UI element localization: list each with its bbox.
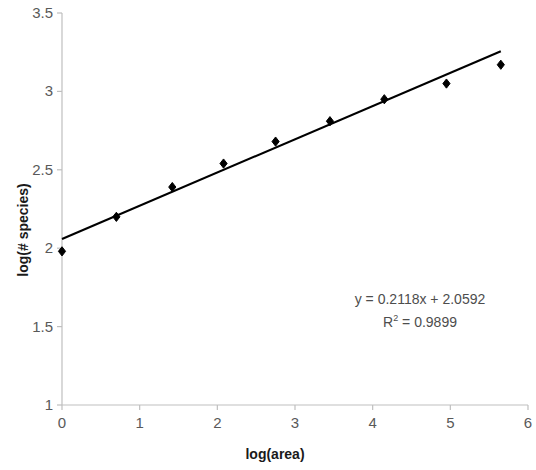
- trend-line: [62, 51, 501, 239]
- x-tick-label: 5: [435, 414, 465, 431]
- data-point-markers: [58, 60, 504, 256]
- plot-area: [0, 0, 536, 470]
- y-axis-title: log(# species): [15, 160, 31, 300]
- y-tick-label: 3: [9, 82, 53, 99]
- x-tick-label: 0: [47, 414, 77, 431]
- y-tick-label: 1: [9, 396, 53, 413]
- y-tick-label: 3.5: [9, 4, 53, 21]
- x-axis-title: log(area): [195, 446, 355, 462]
- x-tick-label: 6: [513, 414, 536, 431]
- r-squared-text: R2 = 0.9899: [330, 311, 510, 334]
- x-tick-label: 3: [280, 414, 310, 431]
- r-squared-label: R: [383, 314, 393, 330]
- y-tick-label: 1.5: [9, 318, 53, 335]
- scatter-chart: 11.522.533.5 0123456 log(# species) log(…: [0, 0, 536, 470]
- x-tick-label: 4: [358, 414, 388, 431]
- x-tick-label: 2: [202, 414, 232, 431]
- r-squared-value: = 0.9899: [398, 314, 457, 330]
- trendline-equation-annotation: y = 0.2118x + 2.0592 R2 = 0.9899: [330, 288, 510, 334]
- x-tick-label: 1: [125, 414, 155, 431]
- regression-equation-text: y = 0.2118x + 2.0592: [330, 288, 510, 311]
